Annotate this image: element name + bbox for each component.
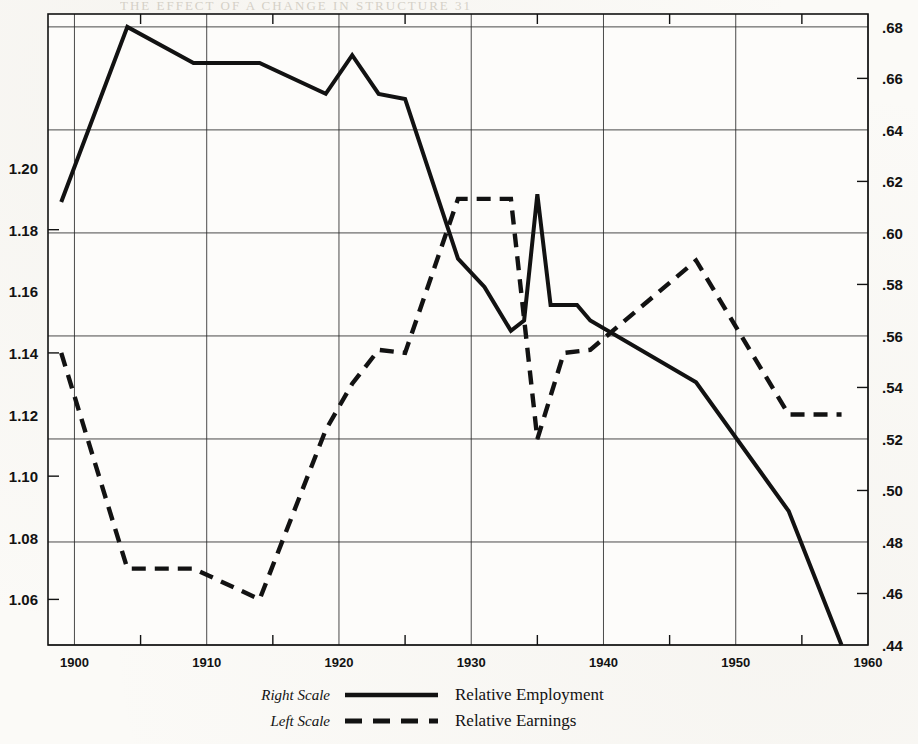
- y-right-tick-label-4: .60: [882, 225, 903, 242]
- chart-figure: THE EFFECT OF A CHANGE IN STRUCTURE 31of…: [0, 0, 918, 744]
- y-left-tick-label-4: 1.12: [9, 407, 38, 424]
- x-axis-tick-label-2: 1920: [325, 655, 354, 670]
- chart-canvas: THE EFFECT OF A CHANGE IN STRUCTURE 31of…: [0, 0, 918, 744]
- y-right-tick-label-8: .52: [882, 431, 903, 448]
- legend-scale-label-0: Right Scale: [260, 687, 330, 703]
- bleed-through-text-0: THE EFFECT OF A CHANGE IN STRUCTURE 31: [120, 0, 472, 13]
- x-axis-tick-label-4: 1940: [589, 655, 618, 670]
- y-right-tick-label-6: .56: [882, 328, 903, 345]
- legend-scale-label-1: Left Scale: [269, 713, 330, 729]
- x-axis-tick-label-5: 1950: [721, 655, 750, 670]
- x-axis-tick-label-1: 1910: [192, 655, 221, 670]
- y-right-tick-label-9: .50: [882, 482, 903, 499]
- y-left-tick-label-7: 1.06: [9, 591, 38, 608]
- plot-background: [48, 14, 868, 645]
- y-left-tick-label-1: 1.18: [9, 222, 38, 239]
- legend-series-name-0: Relative Employment: [455, 685, 604, 704]
- legend-series-name-1: Relative Earnings: [455, 711, 576, 730]
- y-left-tick-label-6: 1.08: [9, 530, 38, 547]
- y-right-tick-label-7: .54: [882, 379, 904, 396]
- y-right-tick-label-10: .48: [882, 534, 903, 551]
- x-axis-tick-label-3: 1930: [457, 655, 486, 670]
- y-left-tick-label-0: 1.20: [9, 160, 38, 177]
- y-right-tick-label-12: .44: [882, 637, 904, 654]
- y-right-tick-label-5: .58: [882, 276, 903, 293]
- y-right-tick-label-3: .62: [882, 173, 903, 190]
- y-left-tick-label-2: 1.16: [9, 283, 38, 300]
- y-right-tick-label-2: .64: [882, 122, 904, 139]
- y-right-tick-label-0: .68: [882, 19, 903, 36]
- y-left-tick-label-3: 1.14: [9, 345, 39, 362]
- y-right-tick-label-1: .66: [882, 70, 903, 87]
- y-right-tick-label-11: .46: [882, 585, 903, 602]
- page-background: THE EFFECT OF A CHANGE IN STRUCTURE 31of…: [0, 0, 918, 744]
- x-axis-tick-label-6: 1960: [854, 655, 883, 670]
- x-axis-tick-label-0: 1900: [60, 655, 89, 670]
- y-left-tick-label-5: 1.10: [9, 468, 38, 485]
